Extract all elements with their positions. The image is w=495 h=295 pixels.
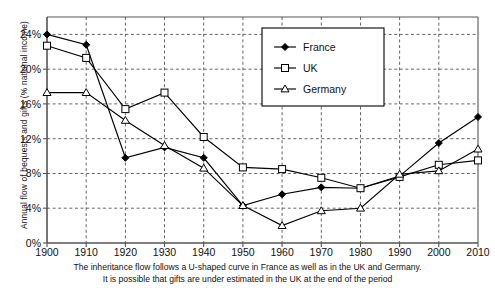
data-point-marker-diamond bbox=[122, 154, 129, 161]
y-axis-title: Annual flow of bequests and gifts (% nat… bbox=[19, 5, 29, 245]
x-axis-tick-label: 1980 bbox=[349, 246, 372, 258]
data-point-marker-diamond bbox=[475, 113, 482, 120]
data-point-marker-square bbox=[161, 89, 168, 96]
x-axis-tick-label: 1950 bbox=[231, 246, 254, 258]
series-line bbox=[47, 93, 478, 226]
legend-label: Germany bbox=[303, 83, 347, 95]
legend: FranceUKGermany bbox=[262, 28, 384, 106]
x-axis-tick-label: 2010 bbox=[466, 246, 489, 258]
data-point-marker-square bbox=[83, 54, 90, 61]
data-point-marker-triangle bbox=[200, 164, 208, 171]
legend-label: UK bbox=[303, 62, 318, 74]
x-axis-tick-label: 1970 bbox=[310, 246, 333, 258]
x-axis-tick-label: 1940 bbox=[192, 246, 215, 258]
chart-container: 0%4%8%12%16%20%24% Annual flow of beques… bbox=[0, 0, 495, 295]
x-axis-tick-label: 2000 bbox=[427, 246, 450, 258]
data-point-marker-square bbox=[44, 42, 51, 49]
data-point-marker-square bbox=[282, 65, 289, 72]
data-point-marker-square bbox=[279, 166, 286, 173]
data-point-marker-triangle bbox=[121, 116, 129, 123]
x-axis-tick-label: 1910 bbox=[74, 246, 97, 258]
data-point-marker-diamond bbox=[279, 191, 286, 198]
x-axis-tick-label: 1900 bbox=[35, 246, 58, 258]
x-axis-tick-label: 1930 bbox=[153, 246, 176, 258]
data-point-marker-diamond bbox=[44, 31, 51, 38]
data-point-marker-square bbox=[239, 164, 246, 171]
data-point-marker-square bbox=[200, 134, 207, 141]
x-axis-tick-label: 1920 bbox=[114, 246, 137, 258]
data-point-marker-square bbox=[475, 157, 482, 164]
data-point-marker-square bbox=[122, 106, 129, 113]
data-point-marker-diamond bbox=[318, 184, 325, 191]
x-axis-tick-label: 1960 bbox=[270, 246, 293, 258]
data-point-marker-square bbox=[357, 185, 364, 192]
x-axis-tick-label: 1990 bbox=[388, 246, 411, 258]
caption-line-2: It is possible that gifts are under esti… bbox=[0, 274, 495, 284]
data-point-marker-triangle bbox=[474, 145, 482, 152]
legend-label: France bbox=[303, 41, 336, 53]
caption-line-1: The inheritance flow follows a U-shaped … bbox=[0, 262, 495, 272]
data-point-marker-triangle bbox=[161, 142, 169, 149]
data-point-marker-diamond bbox=[83, 41, 90, 48]
data-point-marker-square bbox=[318, 174, 325, 181]
